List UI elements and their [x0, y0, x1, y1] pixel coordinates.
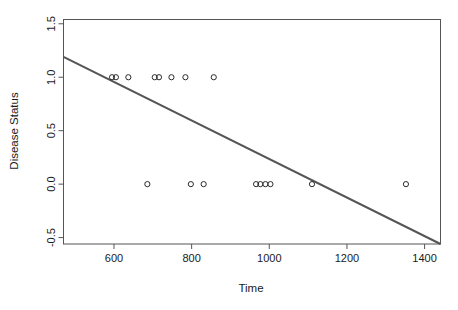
plot-canvas: -0.50.00.51.01.5 600800100012001400 Time… [0, 0, 458, 310]
x-tick-label: 1000 [257, 252, 281, 264]
x-tick-label: 600 [105, 252, 123, 264]
y-tick-label: 0.0 [45, 176, 57, 191]
x-tick-label: 800 [182, 252, 200, 264]
y-tick-label: 1.0 [45, 70, 57, 85]
x-tick-label: 1200 [335, 252, 359, 264]
y-tick-label: 1.5 [45, 16, 57, 31]
y-axis-title: Disease Status [8, 92, 20, 170]
y-tick-label: 0.5 [45, 123, 57, 138]
plot-background [0, 0, 458, 310]
y-tick-label: -0.5 [45, 228, 57, 247]
x-axis-title: Time [238, 282, 263, 294]
x-tick-label: 1400 [412, 252, 436, 264]
scatter-plot-figure: -0.50.00.51.01.5 600800100012001400 Time… [0, 0, 458, 310]
